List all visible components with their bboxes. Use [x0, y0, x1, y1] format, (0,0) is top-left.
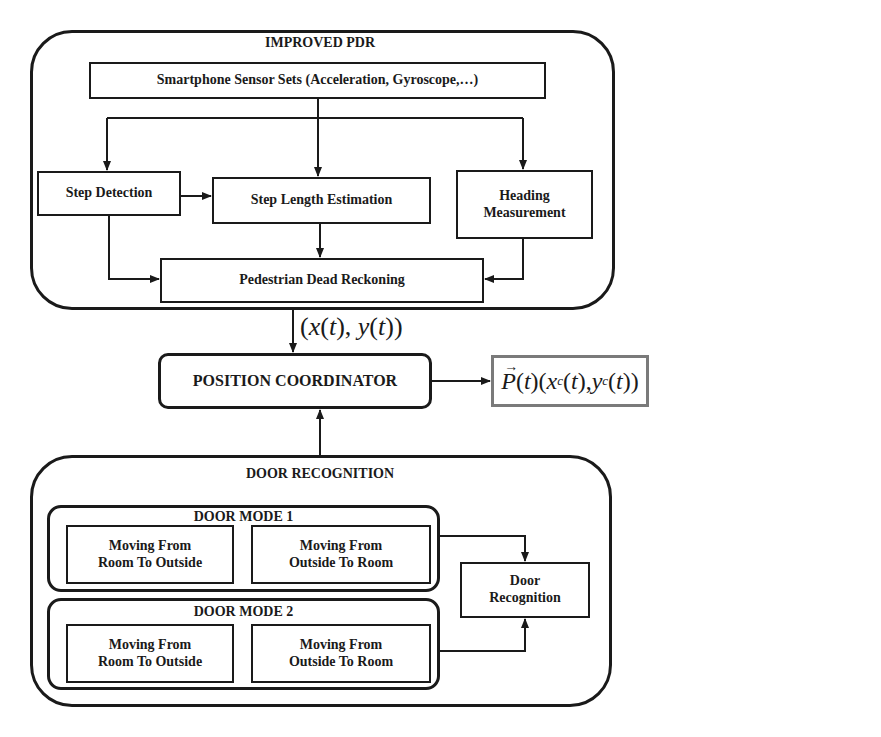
box-line1: Moving From — [300, 538, 383, 555]
pedestrian-dead-reckoning-box: Pedestrian Dead Reckoning — [160, 258, 484, 303]
pdr-output-label: (x(t), y(t)) — [300, 312, 403, 342]
door-mode-2-outside-to-room-box: Moving From Outside To Room — [251, 624, 431, 683]
heading-measurement-line1: Heading — [499, 188, 550, 205]
box-line1: Moving From — [300, 637, 383, 654]
door-mode-2-title: DOOR MODE 2 — [150, 604, 337, 620]
door-mode-2-room-to-outside-box: Moving From Room To Outside — [66, 624, 234, 683]
step-length-estimation-box: Step Length Estimation — [212, 177, 431, 224]
position-coordinator-box: POSITION COORDINATOR — [158, 353, 432, 409]
box-line1: Moving From — [109, 637, 192, 654]
door-recognition-title: DOOR RECOGNITION — [200, 466, 440, 482]
door-mode-1-room-to-outside-box: Moving From Room To Outside — [66, 525, 234, 584]
box-line2: Outside To Room — [289, 654, 393, 671]
door-recognition-line2: Recognition — [489, 590, 561, 607]
door-recognition-line1: Door — [510, 573, 540, 590]
box-line2: Room To Outside — [98, 654, 202, 671]
door-recognition-box: Door Recognition — [460, 562, 590, 618]
heading-measurement-line2: Measurement — [483, 205, 565, 222]
box-line2: Room To Outside — [98, 555, 202, 572]
door-mode-1-title: DOOR MODE 1 — [150, 509, 337, 525]
box-line2: Outside To Room — [289, 555, 393, 572]
box-line1: Moving From — [109, 538, 192, 555]
door-mode-1-outside-to-room-box: Moving From Outside To Room — [251, 525, 431, 584]
sensor-sets-box: Smartphone Sensor Sets (Acceleration, Gy… — [89, 62, 546, 99]
heading-measurement-box: Heading Measurement — [456, 170, 593, 239]
final-output-box: P→(t)(xc(t), yc(t)) — [491, 355, 649, 407]
improved-pdr-title: IMPROVED PDR — [200, 35, 440, 51]
step-detection-box: Step Detection — [37, 171, 181, 216]
